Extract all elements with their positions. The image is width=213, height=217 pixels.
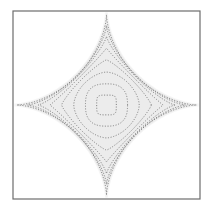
figure-container bbox=[0, 0, 213, 217]
contour-plot bbox=[0, 0, 213, 217]
